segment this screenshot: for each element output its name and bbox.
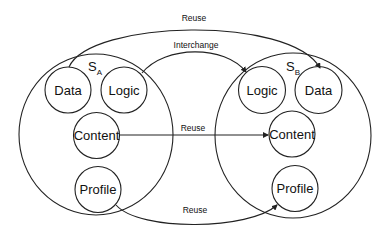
set-a-label: SA (88, 59, 103, 77)
node-label: Content (269, 127, 315, 142)
node-label: Profile (277, 181, 314, 196)
edge-label: Reuse (181, 123, 206, 133)
set-a-node-data: Data (45, 67, 91, 113)
set-a-node-profile: Profile (75, 167, 121, 213)
edge-label: Reuse (183, 205, 208, 215)
node-label: Data (54, 83, 82, 98)
set-a-node-logic: Logic (101, 67, 147, 113)
set-b-node-profile: Profile (272, 166, 318, 212)
reuse-diagram: SA Data Logic Content Profile SB Logic D… (0, 0, 384, 234)
edge-label: Reuse (182, 13, 207, 23)
set-b-label: SB (286, 59, 300, 77)
node-label: Logic (108, 83, 140, 98)
edge-logic-interchange: Interchange (142, 40, 246, 73)
node-label: Data (305, 83, 333, 98)
node-label: Logic (246, 83, 278, 98)
edge-label: Interchange (174, 40, 219, 50)
set-b-node-logic: Logic (239, 67, 286, 114)
set-b-node-content: Content (269, 111, 315, 157)
set-a-node-content: Content (74, 113, 120, 159)
node-label: Content (74, 128, 120, 143)
edge-profile-reuse: Reuse (116, 205, 277, 225)
set-b-node-data: Data (295, 67, 342, 114)
edge-content-reuse: Reuse (120, 123, 269, 135)
node-label: Profile (80, 182, 117, 197)
